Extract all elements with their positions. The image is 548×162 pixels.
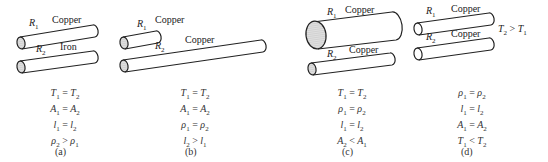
label-a-r1: R1 bbox=[29, 17, 39, 31]
material-d-r1: Copper bbox=[451, 3, 480, 14]
wire-a-r2 bbox=[16, 51, 98, 74]
material-a-r1: Copper bbox=[52, 14, 81, 25]
condition: A1 = A2 bbox=[35, 103, 95, 119]
label-b-r1: R1 bbox=[137, 18, 147, 32]
caption-c: (c) bbox=[342, 146, 353, 157]
conditions-b: T1 = T2 A1 = A2 ρ1 = ρ2 l2 > l1 bbox=[165, 87, 225, 151]
material-c-r2: Copper bbox=[349, 44, 378, 55]
condition: T1 = T2 bbox=[322, 87, 382, 103]
label-a-r2: R2 bbox=[36, 43, 46, 57]
conditions-c: T1 = T2 ρ1 = ρ2 l1 = l2 A2 < A1 bbox=[322, 87, 382, 151]
condition: A1 = A2 bbox=[442, 119, 502, 135]
annotation-d-temperature: T2 > T1 bbox=[498, 23, 527, 37]
material-b-r1: Copper bbox=[155, 14, 184, 25]
label-c-r2: R2 bbox=[327, 48, 337, 62]
condition: l1 = l2 bbox=[35, 119, 95, 135]
material-a-r2: Iron bbox=[60, 41, 77, 52]
label-d-r1: R1 bbox=[426, 5, 436, 19]
caption-d: (d) bbox=[461, 146, 473, 157]
label-b-r2: R2 bbox=[155, 40, 165, 54]
condition: T1 = T2 bbox=[35, 87, 95, 103]
condition: T1 = T2 bbox=[165, 87, 225, 103]
conditions-a: T1 = T2 A1 = A2 l1 = l2 ρ2 > ρ1 bbox=[35, 87, 95, 151]
caption-b: (b) bbox=[185, 146, 197, 157]
caption-a: (a) bbox=[55, 146, 66, 157]
label-c-r1: R1 bbox=[327, 6, 337, 20]
condition: ρ1 = ρ2 bbox=[442, 87, 502, 103]
label-d-r2: R2 bbox=[426, 31, 436, 45]
condition: A1 = A2 bbox=[165, 103, 225, 119]
wire-c-r2 bbox=[307, 53, 395, 76]
conditions-d: ρ1 = ρ2 l1 = l2 A1 = A2 T1 < T2 bbox=[442, 87, 502, 151]
material-c-r1: Copper bbox=[345, 4, 374, 15]
material-b-r2: Copper bbox=[185, 34, 214, 45]
condition: ρ1 = ρ2 bbox=[322, 103, 382, 119]
condition: l1 = l2 bbox=[442, 103, 502, 119]
condition: l1 = l2 bbox=[322, 119, 382, 135]
condition: ρ1 = ρ2 bbox=[165, 119, 225, 135]
material-d-r2: Copper bbox=[451, 28, 480, 39]
